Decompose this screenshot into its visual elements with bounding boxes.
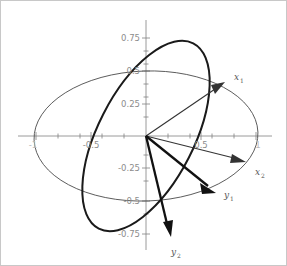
vector-diagram-svg: 0.75 0.5 0.25 -0.25 -0.5 -0.75 -1 -0.5 0… xyxy=(0,0,287,266)
vector-label-x1: x 1 xyxy=(234,72,244,84)
ytick-label-0-5: 0.5 xyxy=(126,66,140,76)
ytick-label-neg-0-75: -0.75 xyxy=(118,229,140,239)
xtick-label-neg-0-5: -0.5 xyxy=(83,140,100,150)
ytick-label-neg-0-25: -0.25 xyxy=(118,163,140,173)
vector-label-y1: y 1 xyxy=(223,190,234,202)
ytick-label-neg-0-5: -0.5 xyxy=(123,196,140,206)
vector-x1-shaft xyxy=(146,87,218,136)
vector-y2-arrowhead xyxy=(163,220,173,237)
vector-label-y2-subscript: 2 xyxy=(177,252,181,259)
vector-label-x2: x 2 xyxy=(255,167,265,179)
vector-label-y1-base: y xyxy=(223,190,230,200)
xtick-label-1: 1 xyxy=(255,140,260,150)
vector-label-x2-base: x xyxy=(255,167,260,177)
vector-y2 xyxy=(146,136,173,237)
vector-label-x2-subscript: 2 xyxy=(261,172,265,179)
figure-canvas: 0.75 0.5 0.25 -0.25 -0.5 -0.75 -1 -0.5 0… xyxy=(0,0,287,266)
figure-border xyxy=(1,1,287,266)
ytick-label-0-25: 0.25 xyxy=(121,99,140,109)
vector-x2-arrowhead xyxy=(230,154,246,163)
vector-x1-arrowhead xyxy=(211,82,225,94)
vector-x1 xyxy=(146,82,225,136)
xtick-label-0-5: 0.5 xyxy=(194,140,208,150)
xtick-label-neg-1: -1 xyxy=(29,140,37,150)
vector-label-y2: y 2 xyxy=(170,247,181,259)
ytick-label-0-75: 0.75 xyxy=(121,33,140,43)
vector-label-y1-subscript: 1 xyxy=(230,195,234,202)
vector-label-x1-subscript: 1 xyxy=(240,77,244,84)
vector-label-x1-base: x xyxy=(234,72,239,82)
vector-label-y2-base: y xyxy=(170,247,177,257)
